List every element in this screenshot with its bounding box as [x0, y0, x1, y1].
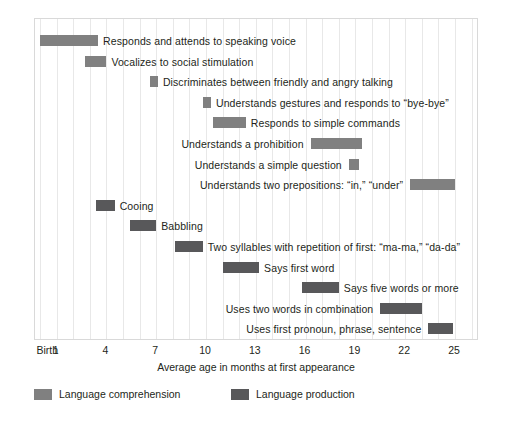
x-tick-label: 19: [349, 344, 361, 356]
legend-label: Language production: [256, 388, 355, 400]
chart-row: Vocalizes to social stimulation: [35, 53, 477, 71]
chart-row: Understands gestures and responds to “by…: [35, 94, 477, 112]
milestone-label: Babbling: [161, 217, 203, 235]
milestone-label: Vocalizes to social stimulation: [111, 53, 253, 71]
chart-row: Babbling: [35, 217, 477, 235]
milestone-bar: [380, 303, 422, 314]
milestone-label: Understands two prepositions: “in,” “und…: [200, 176, 403, 194]
chart-row: Understands a prohibition: [35, 135, 477, 153]
x-tick-label: 1: [53, 344, 59, 356]
milestone-bar: [96, 200, 114, 211]
x-tick-label: 22: [398, 344, 410, 356]
milestone-label: Says five words or more: [344, 279, 459, 297]
x-axis-title: Average age in months at first appearanc…: [0, 361, 512, 373]
chart-row: Discriminates between friendly and angry…: [35, 73, 477, 91]
milestone-bar: [130, 220, 157, 231]
chart-row: Cooing: [35, 197, 477, 215]
x-tick-label: 25: [448, 344, 460, 356]
x-axis-tick-labels: Birth147101316192225: [34, 344, 478, 360]
milestone-bar: [349, 159, 359, 170]
chart-row: Two syllables with repetition of first: …: [35, 238, 477, 256]
milestone-label: Uses two words in combination: [226, 300, 374, 318]
chart-row: Says first word: [35, 259, 477, 277]
milestone-label: Understands a prohibition: [181, 135, 303, 153]
milestone-bar: [428, 323, 453, 334]
legend-swatch: [34, 389, 52, 400]
chart-row: Says five words or more: [35, 279, 477, 297]
milestone-bar: [40, 35, 98, 46]
legend-swatch: [231, 389, 249, 400]
chart-row: Uses first pronoun, phrase, sentence: [35, 320, 477, 338]
legend-item: Language production: [231, 388, 355, 400]
x-tick-label: 13: [249, 344, 261, 356]
chart-row: Uses two words in combination: [35, 300, 477, 318]
chart-row: Understands a simple question: [35, 156, 477, 174]
milestone-bar: [410, 179, 455, 190]
milestone-label: Understands a simple question: [195, 156, 342, 174]
milestone-label: Responds to simple commands: [251, 114, 400, 132]
milestone-label: Uses first pronoun, phrase, sentence: [246, 320, 421, 338]
milestone-bar: [213, 117, 246, 128]
x-tick-label: 4: [102, 344, 108, 356]
chart-row: Understands two prepositions: “in,” “und…: [35, 176, 477, 194]
plot-area: Responds and attends to speaking voiceVo…: [34, 18, 478, 340]
legend-item: Language comprehension: [34, 388, 180, 400]
milestone-label: Says first word: [264, 259, 334, 277]
milestone-bar: [85, 56, 107, 67]
milestone-bar: [311, 138, 363, 149]
milestone-label: Understands gestures and responds to “by…: [216, 94, 449, 112]
milestone-label: Responds and attends to speaking voice: [103, 32, 296, 50]
chart-row: Responds and attends to speaking voice: [35, 32, 477, 50]
milestone-label: Two syllables with repetition of first: …: [208, 238, 460, 256]
x-tick-label: 10: [199, 344, 211, 356]
milestone-bar: [223, 262, 260, 273]
milestone-bar: [302, 282, 339, 293]
milestone-bar: [175, 241, 203, 252]
x-tick-label: 16: [299, 344, 311, 356]
milestone-label: Discriminates between friendly and angry…: [163, 73, 393, 91]
milestone-bar: [150, 76, 158, 87]
milestone-bar: [203, 97, 211, 108]
milestone-label: Cooing: [120, 197, 154, 215]
chart-root: Responds and attends to speaking voiceVo…: [0, 0, 512, 421]
chart-row: Responds to simple commands: [35, 114, 477, 132]
x-tick-label: 7: [152, 344, 158, 356]
legend-label: Language comprehension: [59, 388, 180, 400]
